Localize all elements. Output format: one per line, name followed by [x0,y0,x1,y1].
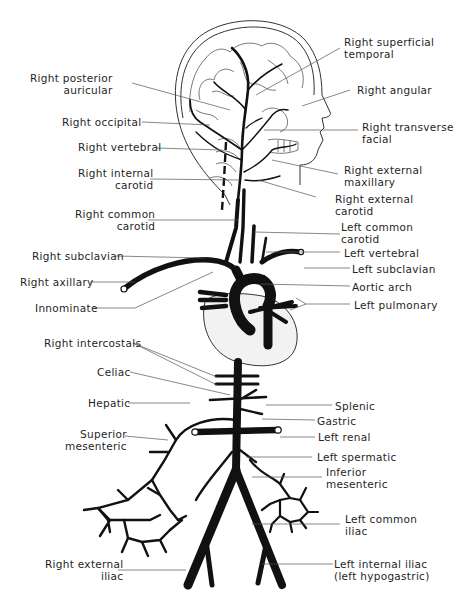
label-superior-mesenteric: Superiormesenteric [65,428,127,452]
label-right-subclavian: Right subclavian [32,250,124,262]
subclavian-arteries [121,249,304,292]
label-left-subclavian: Left subclavian [352,263,436,275]
label-right-external-carotid: Right externalcarotid [335,193,413,217]
head-outline [175,21,330,205]
label-right-posterior-auricular: Right posteriorauricular [30,72,113,96]
label-right-occipital: Right occipital [62,116,141,128]
label-right-internal-carotid: Right internalcarotid [78,167,153,191]
label-left-common-carotid: Left commoncarotid [341,221,413,245]
label-right-common-carotid: Right commoncarotid [75,208,155,232]
label-right-axillary: Right axillary [20,276,94,288]
label-right-external-iliac: Right externaliliac [45,558,123,582]
label-right-angular: Right angular [357,84,432,96]
label-left-pulmonary: Left pulmonary [354,299,438,311]
label-celiac: Celiac [97,366,131,378]
label-left-common-iliac: Left commoniliac [345,513,417,537]
label-left-renal: Left renal [318,431,371,443]
label-splenic: Splenic [335,400,375,412]
abdominal-aorta [188,362,282,585]
label-right-intercostals: Right intercostals [44,337,141,349]
head-arteries [190,48,296,200]
arterial-system-diagram: Right posteriorauricular Right occipital… [0,0,461,602]
label-hepatic: Hepatic [88,397,130,409]
label-left-vertebral: Left vertebral [344,247,419,259]
label-inferior-mesenteric: Inferiormesenteric [326,466,388,490]
label-right-transverse-facial: Right transversefacial [362,121,454,145]
label-gastric: Gastric [317,415,356,427]
label-left-internal-iliac: Left internal iliac(left hypogastric) [334,558,430,582]
label-right-superficial-temporal: Right superficialtemporal [344,36,434,60]
label-right-vertebral: Right vertebral [78,141,161,153]
label-aortic-arch: Aortic arch [352,281,412,293]
label-left-spermatic: Left spermatic [317,451,397,463]
label-right-external-maxillary: Right externalmaxillary [344,164,422,188]
neck-vessels [226,190,266,262]
label-innominate: Innominate [35,302,98,314]
